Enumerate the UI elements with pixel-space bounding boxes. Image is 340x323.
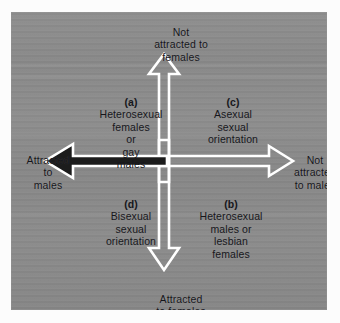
quadrant-a-line-3: or — [126, 133, 136, 145]
axis-label-right-line-3: to males — [295, 179, 327, 191]
axis-label-left-line-2: to — [44, 166, 53, 178]
axis-label-bottom: Attracted to females — [119, 293, 243, 310]
quadrant-c-line-3: orientation — [208, 133, 258, 145]
quadrant-d-key: (d) — [83, 198, 179, 210]
axis-label-left-line-3: males — [34, 179, 63, 191]
figure-root: Not attracted to females Attracted to fe… — [0, 0, 340, 323]
quadrant-d-line-1: Bisexual — [111, 210, 152, 222]
quadrant-c-line-1: Asexual — [214, 108, 252, 120]
quadrant-d-line-2: sexual — [116, 223, 147, 235]
axis-label-right-line-1: Not — [307, 154, 324, 166]
quadrant-b-line-1: Heterosexual — [199, 210, 262, 222]
diagram-panel: Not attracted to females Attracted to fe… — [11, 12, 327, 310]
quadrant-a-line-5: males — [117, 158, 146, 170]
quadrant-a-key: (a) — [83, 96, 179, 108]
quadrant-d-label: (d) Bisexual sexual orientation — [83, 198, 179, 248]
axis-label-top-line-2: attracted to — [154, 38, 208, 50]
quadrant-d-line-3: orientation — [106, 235, 156, 247]
quadrant-b-key: (b) — [181, 198, 281, 210]
axis-label-top: Not attracted to females — [119, 26, 243, 63]
quadrant-c-key: (c) — [187, 96, 279, 108]
quadrant-c-line-2: sexual — [218, 121, 249, 133]
quadrant-a-label: (a) Heterosexual females or gay males — [83, 96, 179, 170]
axis-label-left-line-1: Attracted — [27, 154, 70, 166]
quadrant-b-line-4: females — [212, 248, 249, 260]
quadrant-c-label: (c) Asexual sexual orientation — [187, 96, 279, 146]
quadrant-a-line-2: females — [112, 121, 149, 133]
quadrant-b-line-3: lesbian — [214, 235, 248, 247]
axis-label-right-line-2: attracted — [294, 166, 327, 178]
right-arrow-icon — [161, 146, 293, 176]
quadrant-a-line-1: Heterosexual — [99, 108, 162, 120]
quadrant-b-line-2: males or — [210, 223, 251, 235]
axis-label-right: Not attracted to males — [282, 154, 327, 191]
axis-label-left: Attracted to males — [15, 154, 81, 191]
axis-label-top-line-3: females — [162, 51, 199, 63]
quadrant-b-label: (b) Heterosexual males or lesbian female… — [181, 198, 281, 260]
quadrant-a-line-4: gay — [122, 146, 139, 158]
axis-label-top-line-1: Not — [173, 26, 190, 38]
axis-label-bottom-line-2: to females — [156, 305, 205, 310]
axis-label-bottom-line-1: Attracted — [160, 293, 203, 305]
